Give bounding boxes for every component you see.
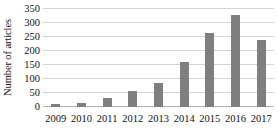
x-axis-tick-labels: 200920102011201220132014201520162017 bbox=[43, 112, 274, 130]
bar-chart-figure: Number of articles 050100150200250300350… bbox=[0, 0, 278, 140]
bar-slot bbox=[146, 9, 172, 107]
x-axis-tick-label: 2012 bbox=[120, 112, 146, 130]
bar[interactable] bbox=[128, 91, 137, 107]
y-axis-tick-label: 250 bbox=[14, 32, 40, 42]
x-axis-tick-label: 2013 bbox=[146, 112, 172, 130]
bar-slot bbox=[69, 9, 95, 107]
bar[interactable] bbox=[103, 98, 112, 107]
bar[interactable] bbox=[205, 33, 214, 107]
y-axis-tick-label: 50 bbox=[14, 88, 40, 98]
bar-slot bbox=[94, 9, 120, 107]
bar-slot bbox=[120, 9, 146, 107]
y-axis-title: Number of articles bbox=[0, 0, 14, 115]
y-axis-tick-label: 300 bbox=[14, 18, 40, 28]
x-axis-tick-label: 2009 bbox=[43, 112, 69, 130]
x-axis-tick-label: 2011 bbox=[94, 112, 120, 130]
bar-slot bbox=[223, 9, 249, 107]
y-axis-tick-label: 150 bbox=[14, 60, 40, 70]
bar[interactable] bbox=[231, 15, 240, 107]
y-axis-tick-label: 350 bbox=[14, 4, 40, 14]
x-axis-tick-label: 2010 bbox=[69, 112, 95, 130]
y-axis-tick-label: 100 bbox=[14, 74, 40, 84]
x-axis-tick-label: 2017 bbox=[248, 112, 274, 130]
bar[interactable] bbox=[154, 83, 163, 107]
x-axis-tick-label: 2015 bbox=[197, 112, 223, 130]
bar[interactable] bbox=[51, 104, 60, 107]
x-axis-tick-label: 2016 bbox=[223, 112, 249, 130]
plot-area bbox=[43, 9, 274, 107]
bar[interactable] bbox=[180, 62, 189, 107]
bar[interactable] bbox=[257, 40, 266, 107]
bar[interactable] bbox=[77, 103, 86, 107]
y-axis-tick-labels: 050100150200250300350 bbox=[14, 4, 40, 112]
bars-layer bbox=[43, 9, 274, 107]
y-axis-tick-label: 200 bbox=[14, 46, 40, 56]
bar-slot bbox=[171, 9, 197, 107]
bar-slot bbox=[43, 9, 69, 107]
y-axis-tick-label: 0 bbox=[14, 102, 40, 112]
bar-slot bbox=[248, 9, 274, 107]
x-axis-tick-label: 2014 bbox=[171, 112, 197, 130]
bar-slot bbox=[197, 9, 223, 107]
